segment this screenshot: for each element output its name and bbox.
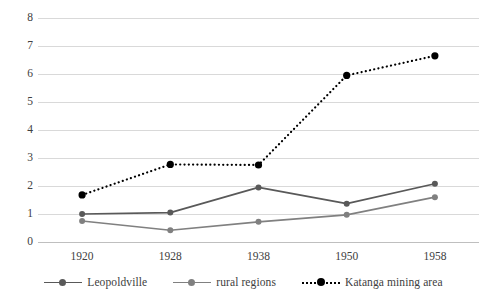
data-point	[255, 161, 262, 168]
legend-item-leopoldville[interactable]: Leopoldville	[44, 275, 147, 289]
series-line	[82, 56, 435, 195]
x-tick-label: 1920	[52, 249, 112, 263]
x-axis: 19201928193819501958	[38, 249, 479, 265]
data-point	[344, 201, 350, 207]
data-point	[79, 191, 86, 198]
data-point	[432, 181, 438, 187]
x-tick-label: 1958	[405, 249, 465, 263]
series-leopoldville	[79, 181, 438, 217]
line-chart: 012345678 19201928193819501958 Leopoldvi…	[0, 0, 487, 301]
legend-swatch-rural-regions	[173, 277, 211, 288]
data-point	[431, 52, 438, 59]
data-point	[256, 184, 262, 190]
data-point	[79, 211, 85, 217]
x-tick-label: 1950	[317, 249, 377, 263]
data-point	[167, 161, 174, 168]
data-point	[167, 227, 173, 233]
x-tick-label: 1938	[229, 249, 289, 263]
legend-swatch-leopoldville	[44, 277, 82, 288]
series-katanga-mining-area	[79, 52, 439, 198]
chart-legend: Leopoldville rural regions Katanga minin…	[0, 271, 487, 293]
data-point	[344, 212, 350, 218]
legend-label-katanga-mining-area: Katanga mining area	[345, 275, 443, 289]
legend-label-leopoldville: Leopoldville	[87, 275, 147, 289]
legend-item-rural-regions[interactable]: rural regions	[173, 275, 276, 289]
legend-swatch-katanga-mining-area	[302, 277, 340, 288]
legend-item-katanga-mining-area[interactable]: Katanga mining area	[302, 275, 443, 289]
x-tick-label: 1928	[140, 249, 200, 263]
legend-label-rural-regions: rural regions	[216, 275, 276, 289]
data-point	[343, 72, 350, 79]
data-point	[256, 219, 262, 225]
data-point	[79, 218, 85, 224]
data-point	[167, 210, 173, 216]
data-point	[432, 194, 438, 200]
